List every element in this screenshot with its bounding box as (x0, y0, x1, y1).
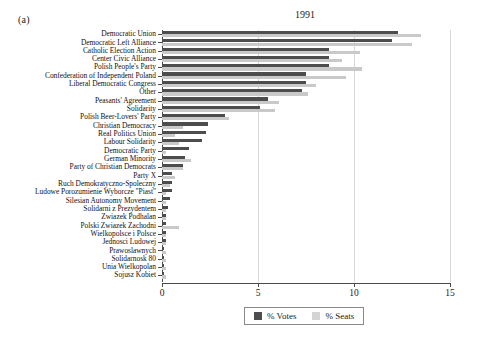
bar-seats (162, 226, 179, 229)
bar-group (162, 263, 450, 271)
bar-group (162, 47, 450, 55)
bar-seats (162, 134, 175, 137)
bar-group (162, 138, 450, 146)
bar-seats (162, 151, 166, 154)
bar-seats (162, 34, 421, 37)
bar-votes (162, 147, 189, 150)
bar-seats (162, 142, 179, 145)
bar-group (162, 271, 450, 279)
legend-swatch (254, 312, 262, 320)
bar-group (162, 63, 450, 71)
chart-legend: % Votes% Seats (244, 307, 364, 325)
bar-seats (162, 167, 183, 170)
bar-seats (162, 92, 308, 95)
x-tick-label: 10 (349, 288, 359, 298)
bar-seats (162, 159, 191, 162)
chart-title: 1991 (160, 9, 450, 20)
bar-seats (162, 251, 166, 254)
bar-seats (162, 209, 166, 212)
bar-seats (162, 184, 170, 187)
bar-seats (162, 242, 166, 245)
bar-group (162, 221, 450, 229)
bar-seats (162, 67, 362, 70)
bar-group (162, 130, 450, 138)
x-tick-label: 5 (256, 288, 261, 298)
legend-swatch (312, 312, 320, 320)
bar-seats (162, 275, 166, 278)
legend-label: % Seats (325, 311, 354, 321)
bar-group (162, 72, 450, 80)
panel-label: (a) (18, 14, 30, 25)
bar-seats (162, 59, 342, 62)
category-label: Jednosci Ludowej (102, 238, 156, 246)
bar-seats (162, 259, 166, 262)
x-tick-label: 15 (445, 288, 455, 298)
bar-group (162, 171, 450, 179)
bar-group (162, 205, 450, 213)
bar-group (162, 188, 450, 196)
bar-group (162, 113, 450, 121)
bar-group (162, 155, 450, 163)
legend-entry: % Seats (312, 311, 354, 321)
bar-group (162, 55, 450, 63)
x-axis-line (162, 283, 450, 284)
bar-seats (162, 109, 275, 112)
bar-group (162, 97, 450, 105)
bar-group (162, 30, 450, 38)
bar-seats (162, 192, 166, 195)
bar-group (162, 196, 450, 204)
bar-seats (162, 234, 166, 237)
legend-label: % Votes (267, 311, 296, 321)
bar-seats (162, 76, 346, 79)
bar-seats (162, 84, 316, 87)
bar-seats (162, 267, 166, 270)
bar-group (162, 105, 450, 113)
bar-group (162, 238, 450, 246)
bar-seats (162, 201, 166, 204)
bar-group (162, 246, 450, 254)
bar-group (162, 213, 450, 221)
bar-seats (162, 43, 412, 46)
bar-group (162, 163, 450, 171)
legend-entry: % Votes (254, 311, 296, 321)
bar-group (162, 180, 450, 188)
chart-figure: (a) 1991 051015 Democratic UnionDemocrat… (0, 0, 483, 345)
bar-seats (162, 117, 229, 120)
x-tick-label: 0 (160, 288, 165, 298)
category-label: Sojusz Kobiet (114, 271, 156, 279)
x-tick-mark (354, 283, 355, 287)
bar-group (162, 146, 450, 154)
bar-group (162, 255, 450, 263)
x-tick-mark (162, 283, 163, 287)
plot-area (162, 30, 450, 280)
bar-group (162, 122, 450, 130)
bar-seats (162, 176, 175, 179)
bar-group (162, 230, 450, 238)
bar-seats (162, 217, 166, 220)
category-labels: Democratic UnionDemocratic Left Alliance… (0, 30, 159, 280)
bar-group (162, 38, 450, 46)
category-label: Democratic Union (101, 30, 156, 38)
bar-group (162, 80, 450, 88)
x-tick-mark (258, 283, 259, 287)
gridline (450, 30, 451, 282)
bar-seats (162, 101, 279, 104)
bar-group (162, 88, 450, 96)
bar-seats (162, 126, 183, 129)
bar-seats (162, 51, 360, 54)
x-tick-mark (450, 283, 451, 287)
